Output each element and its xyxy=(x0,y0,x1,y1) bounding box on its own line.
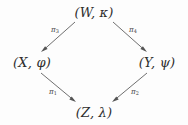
arrow-w-x-line xyxy=(44,22,76,50)
node-y: (Y, ψ) xyxy=(139,55,176,70)
arrow-label-pi4-subscript: 4 xyxy=(134,28,137,34)
arrow-y-z xyxy=(112,73,147,102)
commutative-diagram: (W, κ) (X, φ) (Y, ψ) (Z, λ) π3 π4 π1 π2 xyxy=(0,0,188,125)
node-w: (W, κ) xyxy=(74,5,113,20)
node-x: (X, φ) xyxy=(13,55,51,70)
arrow-x-z xyxy=(41,73,76,102)
arrow-x-z-line xyxy=(41,73,74,100)
node-z: (Z, λ) xyxy=(76,105,113,120)
arrow-label-pi2: π2 xyxy=(131,88,139,96)
arrow-label-pi1: π1 xyxy=(49,88,57,96)
arrow-label-pi3: π3 xyxy=(51,26,59,34)
arrow-label-pi3-subscript: 3 xyxy=(56,28,59,34)
arrow-label-pi4: π4 xyxy=(129,26,137,34)
arrow-label-pi1-subscript: 1 xyxy=(54,90,57,96)
arrow-label-pi2-subscript: 2 xyxy=(136,90,139,96)
